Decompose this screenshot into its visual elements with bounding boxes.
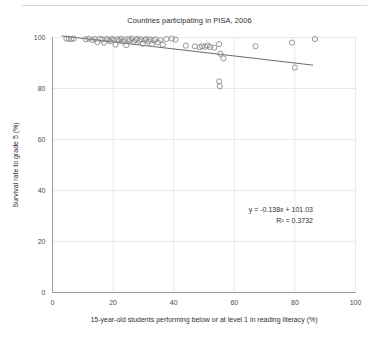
data-point [217, 42, 222, 47]
y-axis-tick-labels: 020406080100 [34, 34, 46, 296]
x-axis-tick-labels: 020406080100 [51, 299, 362, 306]
data-point [217, 79, 222, 84]
y-tick-label: 40 [38, 187, 46, 194]
x-tick-label: 60 [230, 299, 238, 306]
x-tick-label: 0 [51, 299, 55, 306]
data-points [64, 36, 318, 89]
y-tick-label: 0 [42, 289, 46, 296]
data-point [221, 56, 226, 61]
y-tick-label: 100 [34, 34, 46, 41]
data-point [183, 43, 188, 48]
trendline-r2-label: R² = 0.3732 [276, 217, 313, 224]
data-point [160, 42, 165, 47]
chart-canvas: 020406080100 020406080100 15-year-old st… [0, 0, 379, 338]
x-tick-label: 40 [170, 299, 178, 306]
data-point [253, 44, 258, 49]
trendline-equation-label: y = -0.138x + 101.03 [249, 206, 313, 214]
x-tick-label: 80 [291, 299, 299, 306]
x-tick-label: 20 [109, 299, 117, 306]
axis-spines [53, 38, 356, 293]
y-tick-label: 60 [38, 136, 46, 143]
x-axis-title: 15-year-old students performing below or… [90, 316, 317, 324]
y-tick-label: 80 [38, 85, 46, 92]
y-axis-title: Survival rate to grade 5 (%) [12, 122, 20, 207]
scatter-chart: 020406080100 020406080100 15-year-old st… [0, 0, 379, 338]
gridlines [53, 38, 356, 293]
y-tick-label: 20 [38, 238, 46, 245]
data-point [192, 44, 197, 49]
data-point [289, 40, 294, 45]
x-tick-label: 100 [350, 299, 362, 306]
